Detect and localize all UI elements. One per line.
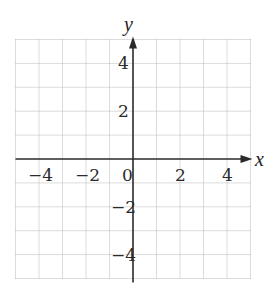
y-tick-label: 2 xyxy=(118,101,129,121)
y-axis-arrow-icon xyxy=(129,37,137,49)
x-axis-label: x xyxy=(254,148,264,170)
y-tick-label: −4 xyxy=(111,245,136,265)
x-tick-label: 4 xyxy=(222,165,233,185)
x-tick-label: −4 xyxy=(28,165,53,185)
x-tick-label: 0 xyxy=(122,165,133,185)
x-tick-label: 2 xyxy=(175,165,186,185)
y-tick-label: −2 xyxy=(111,197,136,217)
x-tick-label: −2 xyxy=(75,165,100,185)
coordinate-plane: −4−202442−2−4 x y xyxy=(0,0,280,286)
y-tick-label: 4 xyxy=(118,53,129,73)
y-axis-label: y xyxy=(122,13,133,36)
